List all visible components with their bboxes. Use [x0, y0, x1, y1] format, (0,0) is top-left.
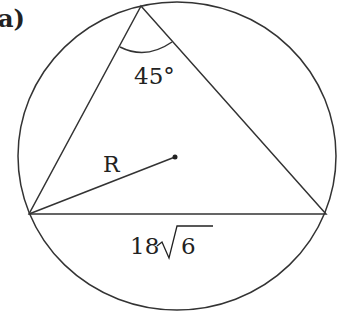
- side-label-coefficient: 18: [130, 233, 159, 259]
- figure-label: a): [0, 4, 25, 33]
- angle-label: 45°: [134, 63, 175, 89]
- center-point: [173, 155, 178, 160]
- circumscribed-triangle-diagram: a) 45° R 18 6: [0, 0, 341, 312]
- side-label-radicand: 6: [181, 233, 196, 259]
- triangle: [29, 6, 326, 214]
- radius-label: R: [103, 152, 121, 177]
- angle-arc: [120, 42, 172, 52]
- radius-segment: [29, 157, 175, 214]
